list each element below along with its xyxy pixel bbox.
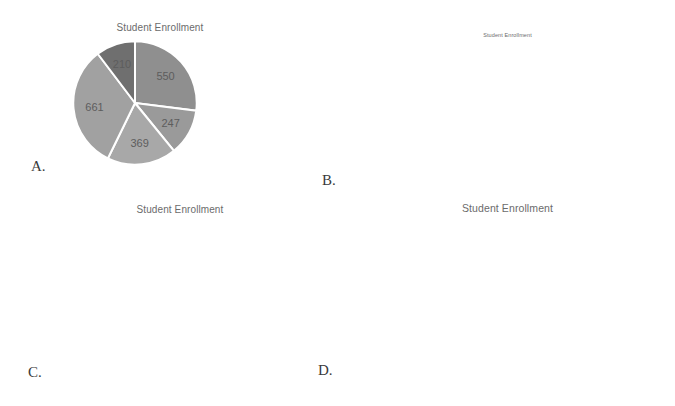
chart-d-plot xyxy=(380,224,652,352)
figure-panel-b: Student Enrollment B. xyxy=(340,0,675,195)
pie-slice-value: 661 xyxy=(85,101,103,113)
figure-panel-d: Student Enrollment D. xyxy=(340,196,675,406)
pie-chart-a: 550247369661210 xyxy=(72,40,198,166)
pie-slice-value: 247 xyxy=(161,117,179,129)
figure-panel-a: Student Enrollment 550247369661210 A. xyxy=(0,0,340,190)
chart-b-plot xyxy=(366,44,662,158)
panel-label-d: D. xyxy=(318,362,333,379)
chart-a-title: Student Enrollment xyxy=(60,22,260,33)
pie-slice-value: 550 xyxy=(156,70,174,82)
chart-b-title: Student Enrollment xyxy=(340,32,675,38)
panel-label-b: B. xyxy=(322,172,336,189)
pie-slice-value: 369 xyxy=(130,137,148,149)
figure-panel-c: Student Enrollment C. xyxy=(0,196,340,406)
panel-label-c: C. xyxy=(28,364,42,381)
chart-c-title: Student Enrollment xyxy=(40,204,320,215)
panel-label-a: A. xyxy=(31,158,46,175)
pie-slice-value: 210 xyxy=(113,58,131,70)
chart-d-title: Student Enrollment xyxy=(340,202,675,214)
chart-c-plot xyxy=(63,224,308,351)
